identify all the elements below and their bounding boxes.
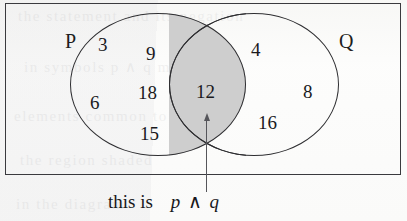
element-p-only: 15 <box>140 124 159 143</box>
venn-diagram-figure: the statement and its negation in symbol… <box>0 0 407 221</box>
set-label-q: Q <box>339 31 353 51</box>
caption-label: this is <box>108 191 153 212</box>
arrow-shaft <box>206 118 207 192</box>
figure-caption: this is p ∧ q <box>108 192 219 211</box>
arrow-up-icon <box>205 113 208 192</box>
element-p-only: 3 <box>98 35 108 54</box>
element-intersection: 12 <box>196 82 215 101</box>
element-p-only: 18 <box>138 83 157 102</box>
caption-formula: p ∧ q <box>171 191 219 212</box>
element-q-only: 16 <box>258 113 277 132</box>
element-p-only: 9 <box>146 44 156 63</box>
element-q-only: 8 <box>303 82 313 101</box>
element-q-only: 4 <box>251 40 261 59</box>
logical-and-operator: ∧ <box>188 191 202 212</box>
proposition-q: q <box>210 191 220 212</box>
set-label-p: P <box>65 31 76 51</box>
proposition-p: p <box>171 191 181 212</box>
element-p-only: 6 <box>90 93 100 112</box>
